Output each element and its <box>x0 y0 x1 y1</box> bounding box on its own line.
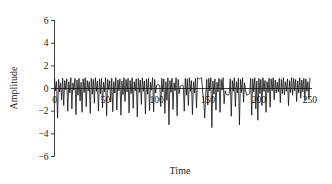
x-tick-label: 200 <box>252 95 267 105</box>
x-tick-label: 0 <box>52 95 57 105</box>
x-tick-label: 100 <box>150 95 165 105</box>
chart-canvas: 6420−2−4−6 050100150200250 Amplitude Tim… <box>0 0 332 184</box>
y-tick-label: 6 <box>44 16 49 26</box>
y-tick-label: −6 <box>38 152 48 162</box>
y-tick-label: −4 <box>38 129 48 139</box>
y-tick-label: 0 <box>44 84 49 94</box>
x-axis-title: Time <box>170 165 191 176</box>
y-tick-labels: 6420−2−4−6 <box>38 16 48 162</box>
y-tick-marks <box>51 21 55 157</box>
chart-figure: 6420−2−4−6 050100150200250 Amplitude Tim… <box>0 0 332 184</box>
y-tick-label: 2 <box>44 61 49 71</box>
y-tick-label: 4 <box>44 38 49 48</box>
y-axis-title: Amplitude <box>8 66 19 109</box>
data-series-signal <box>55 78 310 128</box>
y-tick-label: −2 <box>38 106 48 116</box>
plot-area: 6420−2−4−6 050100150200250 <box>38 16 317 162</box>
